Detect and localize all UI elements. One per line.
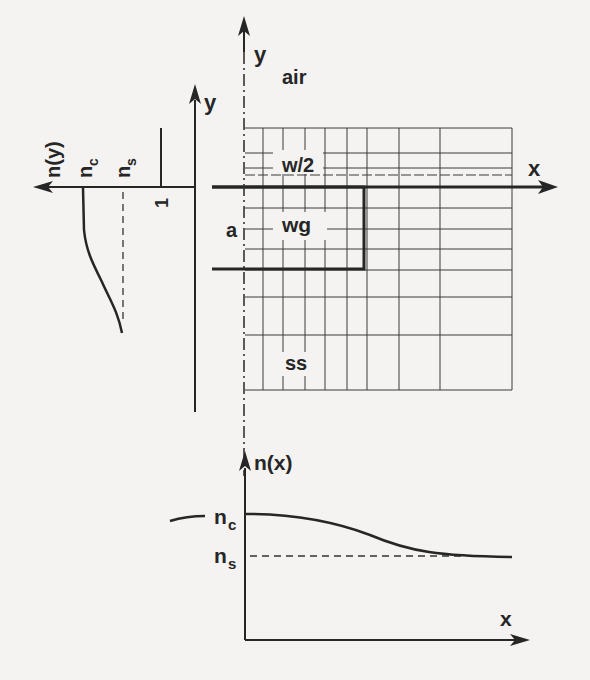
- n-x-axis-label: n(x): [254, 451, 293, 474]
- n-y-profile-curve: [83, 188, 122, 333]
- svg-text:n: n: [74, 166, 96, 178]
- n-c-label-bottom: n c: [214, 505, 236, 533]
- svg-text:n: n: [214, 505, 227, 528]
- bottom-x-axis-label: x: [500, 607, 512, 630]
- n-y-axis: [33, 181, 195, 193]
- region-ss-label: ss: [285, 352, 307, 374]
- x-axis: [212, 180, 558, 194]
- air-index-label: 1: [152, 198, 172, 208]
- n-y-axis-label: n(y): [42, 141, 64, 178]
- svg-text:s: s: [123, 158, 139, 166]
- y-axis-symmetry-line: [238, 16, 250, 476]
- n-x-profile-curve: [246, 514, 512, 557]
- left-y-axis-label: y: [204, 90, 217, 115]
- n-x-profile-mirror-stub: [170, 516, 205, 521]
- svg-text:c: c: [85, 158, 101, 166]
- svg-text:n: n: [112, 166, 134, 178]
- svg-text:s: s: [228, 555, 236, 572]
- y-axis-label: y: [254, 42, 267, 67]
- svg-text:c: c: [228, 516, 236, 533]
- n-s-label-left: n s: [112, 158, 139, 178]
- n-c-label-left: n c: [74, 158, 101, 178]
- svg-text:n: n: [214, 544, 227, 567]
- left-y-axis: [189, 84, 201, 412]
- depth-a-label: a: [226, 219, 238, 241]
- half-width-label: w/2: [281, 154, 314, 176]
- region-wg-label: wg: [281, 213, 311, 236]
- n-x-axis: [239, 451, 251, 640]
- region-air-label: air: [282, 66, 307, 88]
- n-s-label-bottom: n s: [214, 544, 236, 572]
- waveguide-diagram: x y air w/2 wg a ss y n(y) 1 n c n s n: [0, 0, 590, 680]
- x-axis-label: x: [528, 156, 541, 181]
- bottom-x-axis: [245, 634, 530, 646]
